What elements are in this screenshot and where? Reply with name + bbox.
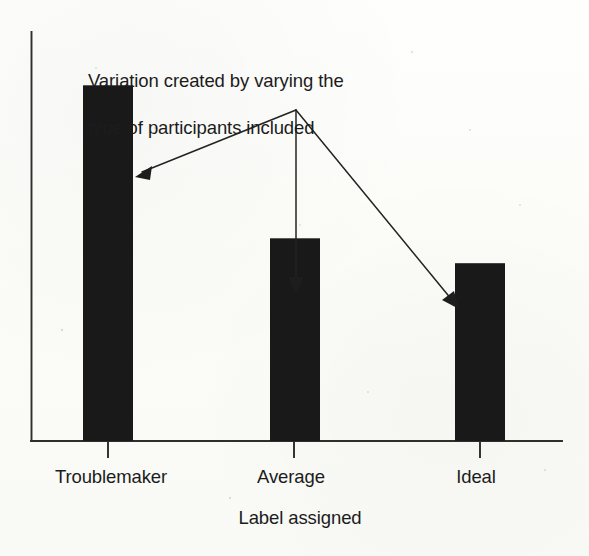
bar-ideal [455,263,505,441]
x-axis-label-troublemaker: Troublemaker [55,466,167,488]
annotation-callout: Variation created by varying the type of… [88,45,344,163]
x-axis-title: Label assigned [238,507,361,529]
annotation-line-1: Variation created by varying the [88,69,344,93]
arrowhead-troublemaker-icon [135,166,152,180]
x-axis-label-ideal: Ideal [456,466,496,488]
bar-chart-figure: Variation created by varying the type of… [0,0,589,556]
annotation-line-2: type of participants included [88,116,344,140]
bar-average [270,238,320,441]
x-axis-label-average: Average [257,466,325,488]
